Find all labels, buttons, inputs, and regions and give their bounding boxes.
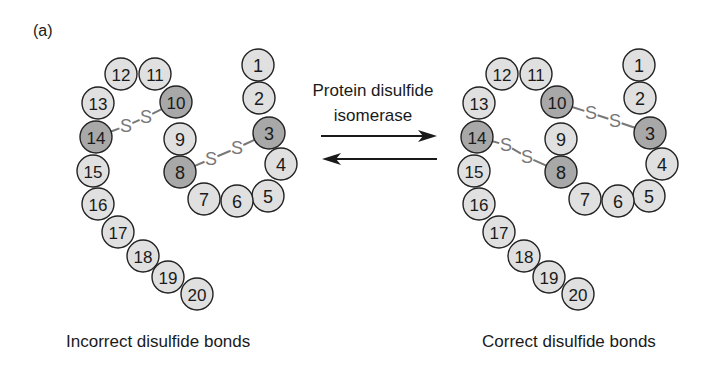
panel-label: (a)	[33, 22, 53, 40]
enzyme-label-line1: Protein disulfide	[300, 78, 446, 103]
residue-number: 7	[580, 190, 590, 210]
residue-8: 8	[545, 156, 577, 188]
sulfur-label: S	[609, 111, 621, 131]
residue-8: 8	[164, 156, 196, 188]
sulfur-label: S	[140, 107, 152, 127]
residue-13: 13	[82, 87, 114, 119]
residue-number: 7	[199, 190, 209, 210]
residue-number: 4	[657, 155, 667, 175]
diagram-canvas: SSSSSSSS 1234567891011121314151617181920…	[0, 0, 721, 388]
residue-number: 14	[87, 129, 106, 148]
residue-17: 17	[483, 216, 515, 248]
residue-number: 17	[490, 224, 509, 243]
residue-number: 8	[175, 163, 185, 183]
caption-correct: Correct disulfide bonds	[482, 332, 656, 352]
residue-17: 17	[102, 216, 134, 248]
residue-6: 6	[602, 185, 634, 217]
residue-14: 14	[461, 121, 493, 153]
residue-18: 18	[508, 240, 540, 272]
residue-10: 10	[160, 86, 192, 118]
residue-number: 4	[276, 155, 286, 175]
residue-16: 16	[463, 188, 495, 220]
sulfur-label: S	[585, 103, 597, 123]
residue-number: 17	[109, 224, 128, 243]
residue-19: 19	[152, 261, 184, 293]
residue-13: 13	[463, 87, 495, 119]
bond-dash	[217, 151, 230, 157]
residue-number: 13	[470, 95, 489, 114]
residue-number: 19	[159, 269, 178, 288]
enzyme-label-line2: isomerase	[300, 103, 446, 128]
residue-12: 12	[105, 58, 137, 90]
residue-number: 16	[89, 196, 108, 215]
sulfur-label: S	[500, 135, 512, 155]
residue-12: 12	[486, 58, 518, 90]
residue-number: 10	[548, 94, 567, 113]
residue-15: 15	[458, 155, 490, 187]
residue-6: 6	[221, 185, 253, 217]
residue-5: 5	[633, 180, 665, 212]
residue-2: 2	[624, 82, 656, 114]
residue-20: 20	[562, 278, 594, 310]
residue-number: 15	[84, 163, 103, 182]
residue-1: 1	[623, 49, 655, 81]
disulfide-bond-10-3: SS	[572, 103, 635, 131]
residue-number: 14	[468, 129, 487, 148]
residue-9: 9	[164, 123, 196, 155]
residue-4: 4	[265, 148, 297, 180]
residue-11: 11	[139, 58, 171, 90]
residue-19: 19	[533, 261, 565, 293]
residue-number: 8	[556, 163, 566, 183]
residue-1: 1	[242, 49, 274, 81]
residue-number: 18	[515, 248, 534, 267]
residue-number: 1	[634, 56, 644, 76]
residue-7: 7	[188, 183, 220, 215]
residue-15: 15	[77, 155, 109, 187]
bond-line	[572, 107, 584, 111]
disulfide-bond-14-10: SS	[111, 107, 162, 136]
bond-dash	[598, 115, 609, 119]
pdi-diagram: SSSSSSSS 1234567891011121314151617181920…	[0, 0, 721, 388]
residue-number: 5	[644, 187, 654, 207]
residue-10: 10	[541, 86, 573, 118]
residue-number: 6	[232, 192, 242, 212]
bond-dash	[132, 120, 139, 123]
chain-correct: 1234567891011121314151617181920	[458, 49, 678, 310]
residue-number: 5	[263, 187, 273, 207]
residue-7: 7	[569, 183, 601, 215]
equilibrium-arrows	[321, 130, 437, 165]
bond-line	[622, 123, 635, 128]
sulfur-label: S	[205, 149, 217, 169]
caption-incorrect: Incorrect disulfide bonds	[66, 332, 250, 352]
residue-5: 5	[252, 180, 284, 212]
enzyme-label: Protein disulfide isomerase	[300, 78, 446, 128]
bond-line	[152, 109, 161, 114]
residue-number: 3	[264, 124, 274, 144]
residue-16: 16	[82, 188, 114, 220]
sulfur-label: S	[231, 138, 243, 158]
residue-number: 11	[527, 66, 545, 85]
residue-4: 4	[646, 148, 678, 180]
bond-line	[195, 162, 205, 166]
residue-number: 1	[253, 56, 263, 76]
residue-number: 11	[146, 66, 164, 85]
residue-number: 9	[556, 130, 566, 150]
residue-14: 14	[80, 121, 112, 153]
residue-number: 15	[465, 163, 484, 182]
residue-number: 3	[645, 124, 655, 144]
disulfide-bond-14-8: SS	[492, 135, 546, 167]
bond-line	[243, 140, 254, 145]
residue-number: 18	[134, 248, 153, 267]
residue-number: 19	[540, 269, 559, 288]
residue-number: 13	[89, 95, 108, 114]
chain-incorrect: 1234567891011121314151617181920	[77, 49, 297, 310]
residue-number: 2	[635, 89, 645, 109]
residue-number: 12	[112, 66, 131, 85]
residue-number: 6	[613, 192, 623, 212]
residue-number: 20	[188, 286, 207, 305]
residue-11: 11	[520, 58, 552, 90]
residue-20: 20	[181, 278, 213, 310]
residue-number: 16	[470, 196, 489, 215]
bond-line	[533, 160, 546, 166]
sulfur-label: S	[521, 147, 533, 167]
